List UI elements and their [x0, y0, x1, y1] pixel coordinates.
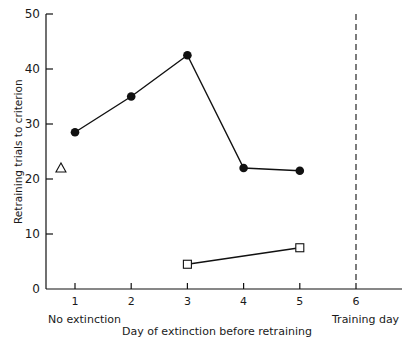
filled-circle-marker	[296, 166, 305, 175]
filled-circles-line	[75, 55, 300, 171]
open-square-marker	[183, 260, 191, 268]
y-tick-label: 20	[25, 172, 40, 186]
y-ticks: 01020304050	[25, 7, 53, 296]
open-triangle-marker	[56, 163, 66, 172]
training-day-label: Training day	[332, 313, 399, 326]
y-tick-label: 0	[32, 282, 40, 296]
x-ticks: 123456	[72, 283, 360, 308]
y-tick-label: 30	[25, 117, 40, 131]
series-layer	[56, 51, 304, 268]
axes	[46, 14, 402, 289]
x-tick-label: 4	[240, 295, 247, 308]
x-tick-label: 1	[72, 295, 79, 308]
filled-circle-marker	[127, 92, 136, 101]
filled-circle-marker	[183, 51, 192, 60]
open-squares-line	[187, 248, 299, 265]
open-square-marker	[296, 244, 304, 252]
filled-circle-marker	[239, 164, 248, 173]
x-tick-label: 5	[296, 295, 303, 308]
x-axis-label: Day of extinction before retraining	[122, 325, 312, 338]
x-tick-label: 6	[353, 295, 360, 308]
y-tick-label: 40	[25, 62, 40, 76]
y-tick-label: 10	[25, 227, 40, 241]
x-tick-label: 3	[184, 295, 191, 308]
y-axis-label: Retraining trials to criterion	[12, 84, 24, 224]
x-tick-label: 2	[128, 295, 135, 308]
y-tick-label: 50	[25, 7, 40, 21]
line-chart: 01020304050 123456	[0, 0, 416, 341]
no-extinction-label: No extinction	[48, 313, 121, 326]
filled-circle-marker	[71, 128, 80, 137]
